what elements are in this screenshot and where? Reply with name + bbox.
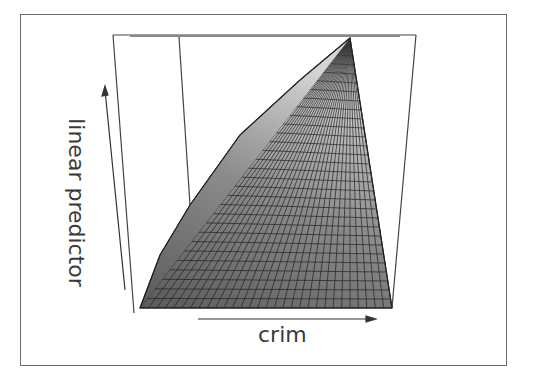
surface-mesh bbox=[140, 38, 392, 308]
y-axis-arrow bbox=[102, 86, 125, 290]
y-axis-label: linear predictor bbox=[64, 103, 89, 303]
x-axis-label: crim bbox=[258, 322, 307, 347]
